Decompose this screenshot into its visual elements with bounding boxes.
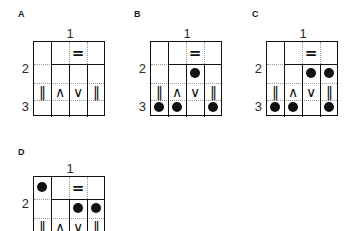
panel-b: B 1 2 3 = ‖ ∧ ∨ ‖ — [125, 0, 243, 140]
panel-c-symbol-col2: ∧ — [284, 83, 302, 100]
panel-a-symbol-col4: ‖ — [87, 83, 106, 100]
panel-a-column-label: 1 — [50, 27, 90, 40]
panel-a: A 1 2 3 = ‖ ∧ ∨ ‖ — [0, 0, 125, 140]
panel-b-dot-r3c4 — [208, 102, 218, 112]
panel-d-equals-symbol: = — [69, 177, 87, 199]
panel-b-dot-r3c2 — [172, 102, 182, 112]
panel-b-row-label-3: 3 — [134, 100, 146, 113]
panel-c-grid: = ‖ ∧ ∨ ‖ — [266, 41, 338, 116]
panel-b-letter: B — [134, 10, 141, 19]
panel-c-equals-symbol: = — [302, 42, 320, 64]
panel-d-col-dotted-3 — [87, 177, 88, 199]
panel-a-row1-underline — [51, 64, 104, 65]
panel-b-row1-underline — [168, 64, 221, 65]
panel-d-dot-r1c1 — [37, 182, 47, 192]
panel-b-row-label-2: 2 — [134, 62, 146, 75]
panel-c-row-label-3: 3 — [250, 100, 262, 113]
panel-a-col-dotted-3 — [87, 42, 88, 64]
panel-d-symbol-col2: ∧ — [51, 218, 69, 231]
panel-d-column-label: 1 — [50, 162, 90, 175]
panel-d-row-label-2: 2 — [17, 197, 29, 210]
panel-b-col-divider-1 — [168, 42, 169, 117]
panel-b-equals-symbol: = — [186, 42, 204, 64]
panel-c-row-label-2: 2 — [250, 62, 262, 75]
panel-a-letter: A — [18, 10, 25, 19]
panel-c-row1-underline — [284, 64, 337, 65]
panel-a-row-label-2: 2 — [17, 62, 29, 75]
panel-c-symbol-col4: ‖ — [320, 83, 339, 100]
panel-a-symbol-col1: ‖ — [34, 83, 51, 100]
panel-a-symbol-col2: ∧ — [51, 83, 69, 100]
panel-c-dot-r3c4 — [324, 102, 334, 112]
panel-b-symbol-col1: ‖ — [151, 83, 168, 100]
panel-b-symbol-col4: ‖ — [204, 83, 223, 100]
panel-a-symbol-col3: ∨ — [69, 83, 87, 100]
panel-c-symbol-col1: ‖ — [267, 83, 284, 100]
panel-d-grid: = ‖ ∧ ∨ ‖ — [33, 176, 105, 231]
panel-a-row-label-3: 3 — [17, 100, 29, 113]
panel-b-column-label: 1 — [167, 27, 207, 40]
panel-d-letter: D — [18, 148, 25, 157]
panel-c-dot-r3c1 — [270, 102, 280, 112]
panel-d-row1-underline — [51, 199, 104, 200]
panel-b-symbol-col3: ∨ — [186, 83, 204, 100]
panel-b-dot-r2c3 — [190, 68, 200, 78]
panel-c-col-dotted-3 — [320, 42, 321, 64]
panel-c-letter: C — [252, 10, 259, 19]
panel-b-dot-r3c1 — [154, 102, 164, 112]
panel-b-col-dotted-3 — [204, 42, 205, 64]
panel-c-col-divider-1 — [284, 42, 285, 117]
panel-a-col-divider-1 — [51, 42, 52, 117]
panel-c-symbol-col3: ∨ — [302, 83, 320, 100]
panel-d-dot-r2c3 — [73, 203, 83, 213]
panel-b-grid: = ‖ ∧ ∨ ‖ — [150, 41, 222, 116]
panel-d-dot-r2c4 — [91, 203, 101, 213]
panel-c-dot-r3c2 — [288, 102, 298, 112]
panel-d-symbol-col3: ∨ — [69, 218, 87, 231]
panel-a-equals-symbol: = — [69, 42, 87, 64]
panel-a-grid: = ‖ ∧ ∨ ‖ — [33, 41, 105, 116]
panel-d-symbol-col4: ‖ — [87, 218, 106, 231]
panel-d-symbol-col1: ‖ — [34, 218, 51, 231]
panel-d: D 1 2 = ‖ ∧ ∨ ‖ — [0, 140, 125, 231]
panel-c-dot-r2c4 — [324, 68, 334, 78]
panel-c-dot-r2c3 — [306, 68, 316, 78]
panel-c-column-label: 1 — [283, 27, 323, 40]
panel-c: C 1 2 3 = ‖ ∧ ∨ ‖ — [243, 0, 351, 140]
panel-b-symbol-col2: ∧ — [168, 83, 186, 100]
